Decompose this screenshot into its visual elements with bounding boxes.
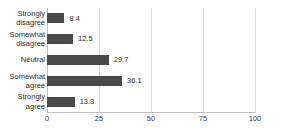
bar-value-label-0: 8.4 (69, 15, 79, 23)
x-tick-label-100: 100 (249, 115, 262, 123)
x-tick-label-50: 50 (147, 115, 155, 123)
y-axis-label-3-line-1: agree (26, 81, 45, 90)
bar-row: 13.3 (47, 91, 255, 112)
bar-series: 8.4 12.5 29.7 36.1 13.3 (47, 8, 255, 112)
y-axis-label-0: Strongly disagree (0, 8, 45, 29)
bar-value-label-4: 13.3 (80, 98, 95, 106)
x-tick-label-75: 75 (199, 115, 207, 123)
bar-strongly-agree (47, 97, 75, 107)
bar-strongly-disagree (47, 13, 64, 23)
bar-value-label-3: 36.1 (127, 77, 142, 85)
gridline-100 (255, 8, 256, 112)
bar-value-label-1: 12.5 (78, 35, 93, 43)
y-axis-category-labels: Strongly disagree Somewhat disagree Neut… (0, 8, 45, 112)
bar-value-label-2: 29.7 (114, 56, 129, 64)
y-axis-label-3-line-0: Somewhat (10, 72, 45, 81)
x-tick-label-0: 0 (45, 115, 49, 123)
y-axis-label-2-line-0: Neutral (21, 55, 45, 64)
y-axis-label-4-line-1: agree (26, 102, 45, 111)
bar-row: 12.5 (47, 29, 255, 50)
y-axis-label-0-line-1: disagree (16, 18, 45, 27)
bar-row: 8.4 (47, 8, 255, 29)
y-axis-label-3: Somewhat agree (0, 70, 45, 91)
x-axis-line (47, 112, 256, 113)
y-axis-label-0-line-0: Strongly (17, 9, 45, 18)
plot-area: 8.4 12.5 29.7 36.1 13.3 (47, 8, 255, 112)
bar-row: 29.7 (47, 50, 255, 71)
bar-neutral (47, 55, 109, 65)
y-axis-label-4: Strongly agree (0, 91, 45, 112)
y-axis-label-1-line-0: Somewhat (10, 30, 45, 39)
bar-somewhat-agree (47, 76, 122, 86)
y-axis-label-2: Neutral (0, 50, 45, 71)
x-axis-tick-labels: 0 25 50 75 100 (0, 115, 281, 131)
bar-row: 36.1 (47, 70, 255, 91)
x-tick-label-25: 25 (95, 115, 103, 123)
bar-somewhat-disagree (47, 34, 73, 44)
y-axis-label-4-line-0: Strongly (17, 92, 45, 101)
horizontal-bar-chart: Strongly disagree Somewhat disagree Neut… (0, 0, 281, 135)
y-axis-label-1-line-1: disagree (16, 39, 45, 48)
y-axis-label-1: Somewhat disagree (0, 29, 45, 50)
